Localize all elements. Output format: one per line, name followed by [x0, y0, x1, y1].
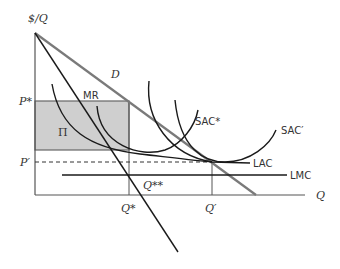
- sac-prime-curve: [175, 100, 276, 162]
- p-prime-label: P′: [19, 156, 30, 169]
- profit-region: [35, 101, 129, 150]
- mr-label: MR: [83, 90, 99, 101]
- sac-prime-label: SAC′: [281, 125, 304, 136]
- sac-star-label: SAC*: [195, 116, 220, 127]
- q-double-star-label: Q**: [143, 179, 164, 192]
- lmc-label: LMC: [290, 170, 311, 181]
- economics-diagram: $/Q Q D MR SAC* SAC′ LAC LMC P* P′ Q* Q′…: [0, 0, 340, 269]
- profit-label: Π: [58, 126, 68, 139]
- x-axis-label: Q: [316, 189, 325, 202]
- p-star-label: P*: [18, 95, 32, 108]
- y-axis-label: $/Q: [28, 12, 48, 25]
- lac-label: LAC: [253, 158, 272, 169]
- demand-label: D: [110, 68, 120, 81]
- q-star-label: Q*: [121, 202, 136, 215]
- q-prime-label: Q′: [205, 202, 217, 215]
